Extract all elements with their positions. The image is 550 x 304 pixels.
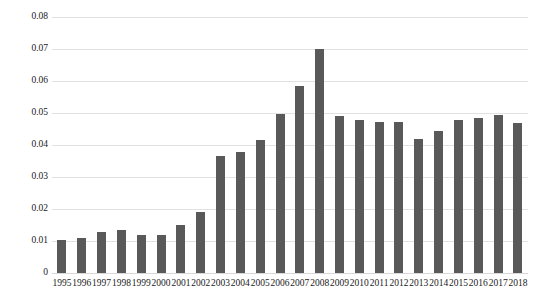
bar-slot: [449, 17, 469, 273]
x-axis-tick-label: 2005: [250, 275, 270, 295]
y-axis-tick-label: 0.02: [4, 204, 48, 214]
bar-slot: [270, 17, 290, 273]
bar[interactable]: [196, 212, 205, 273]
x-axis-tick-label: 2004: [230, 275, 250, 295]
bar-slot: [508, 17, 528, 273]
x-axis-tick-label: 2015: [449, 275, 469, 295]
x-axis-tick-label: 1999: [131, 275, 151, 295]
bar-slot: [409, 17, 429, 273]
x-axis-tick-label: 1995: [52, 275, 72, 295]
bar[interactable]: [236, 152, 245, 273]
x-axis-tick-label: 2010: [349, 275, 369, 295]
bar[interactable]: [454, 120, 463, 273]
bar[interactable]: [414, 139, 423, 273]
bar-chart: 0.080.070.060.050.040.030.020.010 199519…: [0, 0, 550, 304]
bar-slot: [468, 17, 488, 273]
x-axis-tick-label: 2007: [290, 275, 310, 295]
x-axis-tick-label: 2017: [488, 275, 508, 295]
bar-slot: [290, 17, 310, 273]
bar-slot: [191, 17, 211, 273]
bar-slot: [72, 17, 92, 273]
y-axis-tick-label: 0.01: [4, 236, 48, 246]
y-axis-tick-label: 0.06: [4, 76, 48, 86]
x-axis-tick-label: 2009: [330, 275, 350, 295]
bar[interactable]: [434, 131, 443, 273]
x-axis-tick-label: 2001: [171, 275, 191, 295]
bar[interactable]: [117, 230, 126, 273]
x-axis-tick-label: 2000: [151, 275, 171, 295]
y-axis: 0.080.070.060.050.040.030.020.010: [0, 17, 48, 273]
bar-slot: [52, 17, 72, 273]
bar-slot: [389, 17, 409, 273]
bar[interactable]: [57, 240, 66, 273]
bar[interactable]: [256, 140, 265, 273]
bar[interactable]: [394, 122, 403, 273]
bar-slot: [230, 17, 250, 273]
x-axis-tick-label: 2011: [369, 275, 389, 295]
x-axis-tick-label: 2002: [191, 275, 211, 295]
bar[interactable]: [494, 115, 503, 273]
bar-slot: [131, 17, 151, 273]
x-axis: 1995199619971998199920002001200220032004…: [52, 275, 528, 295]
bar-slot: [250, 17, 270, 273]
bar[interactable]: [474, 118, 483, 273]
bar-slot: [330, 17, 350, 273]
x-axis-tick-label: 2018: [508, 275, 528, 295]
bar[interactable]: [276, 114, 285, 273]
x-axis-tick-label: 1998: [111, 275, 131, 295]
bar-slot: [429, 17, 449, 273]
bar-series: [52, 17, 528, 273]
bar[interactable]: [375, 122, 384, 273]
bar[interactable]: [513, 123, 522, 273]
x-axis-tick-label: 2008: [310, 275, 330, 295]
bar[interactable]: [77, 238, 86, 273]
bar[interactable]: [295, 86, 304, 273]
bar-slot: [111, 17, 131, 273]
x-axis-tick-label: 2016: [468, 275, 488, 295]
bar-slot: [151, 17, 171, 273]
x-axis-tick-label: 2003: [211, 275, 231, 295]
x-axis-tick-label: 1997: [92, 275, 112, 295]
bar[interactable]: [97, 232, 106, 273]
bar-slot: [369, 17, 389, 273]
y-axis-tick-label: 0.07: [4, 44, 48, 54]
x-axis-tick-label: 2006: [270, 275, 290, 295]
bar-slot: [211, 17, 231, 273]
bar[interactable]: [157, 235, 166, 273]
plot-area: [52, 17, 528, 273]
bar-slot: [310, 17, 330, 273]
y-axis-tick-label: 0.05: [4, 108, 48, 118]
x-axis-tick-label: 2012: [389, 275, 409, 295]
bar-slot: [171, 17, 191, 273]
bar[interactable]: [355, 120, 364, 273]
y-axis-tick-label: 0.03: [4, 172, 48, 182]
bar[interactable]: [315, 49, 324, 273]
bar-slot: [488, 17, 508, 273]
x-axis-tick-label: 2014: [429, 275, 449, 295]
bar-slot: [92, 17, 112, 273]
y-axis-tick-label: 0.04: [4, 140, 48, 150]
bar[interactable]: [216, 156, 225, 273]
y-axis-tick-label: 0.08: [4, 12, 48, 22]
y-axis-tick-label: 0: [4, 268, 48, 278]
bar[interactable]: [176, 225, 185, 273]
x-axis-tick-label: 2013: [409, 275, 429, 295]
bar-slot: [349, 17, 369, 273]
bar[interactable]: [335, 116, 344, 273]
bar[interactable]: [137, 235, 146, 273]
gridline: [52, 273, 528, 274]
x-axis-tick-label: 1996: [72, 275, 92, 295]
